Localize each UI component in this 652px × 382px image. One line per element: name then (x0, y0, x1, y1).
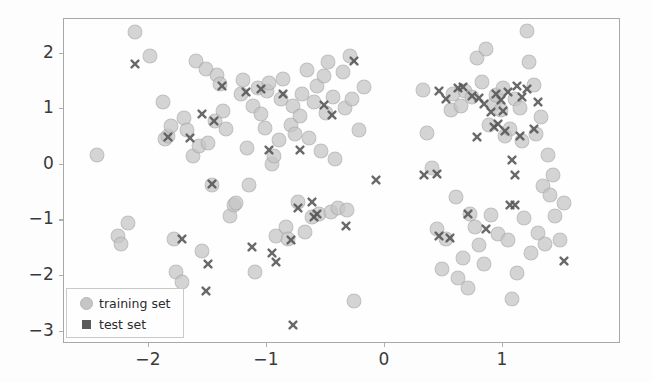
data-point-training-set (314, 144, 329, 159)
data-point-test-set (209, 116, 219, 126)
data-point-training-set (517, 211, 532, 226)
legend-entry-training-set[interactable]: training set (73, 293, 171, 313)
data-point-test-set (241, 87, 251, 97)
data-point-training-set (500, 232, 515, 247)
data-point-test-set (271, 257, 281, 267)
data-point-test-set (185, 133, 195, 143)
data-point-training-set (540, 147, 555, 162)
data-point-test-set (264, 145, 274, 155)
data-point-test-set (319, 100, 329, 110)
data-point-test-set (533, 97, 543, 107)
data-point-test-set (498, 106, 508, 116)
data-point-test-set (510, 170, 520, 180)
data-point-test-set (293, 203, 303, 213)
data-point-training-set (521, 54, 536, 69)
y-tick-mark (59, 108, 63, 109)
x-tick-label: 0 (361, 349, 407, 369)
data-point-test-set (481, 224, 491, 234)
data-point-training-set (288, 126, 303, 141)
data-point-training-set (533, 109, 548, 124)
data-point-test-set (507, 155, 517, 165)
data-point-test-set (256, 84, 266, 94)
data-point-training-set (460, 281, 475, 296)
data-point-test-set (197, 109, 207, 119)
data-point-test-set (163, 132, 173, 142)
data-point-test-set (472, 132, 482, 142)
data-point-test-set (529, 124, 539, 134)
data-point-test-set (500, 126, 510, 136)
data-point-test-set (559, 256, 569, 266)
x-tick-label: −1 (243, 349, 289, 369)
y-tick-label: 2 (10, 42, 54, 62)
data-point-test-set (327, 110, 337, 120)
data-point-training-set (434, 262, 449, 277)
data-point-training-set (344, 92, 359, 107)
x-tick-label: −2 (125, 349, 171, 369)
data-point-training-set (505, 292, 520, 307)
legend-label-test-set: test set (99, 317, 146, 332)
data-point-test-set (515, 131, 525, 141)
data-point-test-set (432, 169, 442, 179)
data-point-training-set (547, 209, 562, 224)
x-tick-label: 1 (479, 349, 525, 369)
data-point-test-set (278, 89, 288, 99)
data-point-training-set (474, 75, 489, 90)
data-point-test-set (307, 197, 317, 207)
data-point-test-set (419, 170, 429, 180)
data-point-training-set (113, 236, 128, 251)
data-point-training-set (229, 195, 244, 210)
legend-entry-test-set[interactable]: test set (73, 314, 146, 334)
y-tick-mark (59, 275, 63, 276)
data-point-test-set (295, 145, 305, 155)
data-point-training-set (543, 188, 558, 203)
data-point-training-set (302, 131, 317, 146)
data-point-training-set (328, 152, 343, 167)
data-point-training-set (557, 195, 572, 210)
data-point-training-set (218, 122, 233, 137)
data-point-test-set (486, 107, 496, 117)
data-point-training-set (321, 54, 336, 69)
data-point-training-set (242, 177, 257, 192)
data-point-training-set (195, 244, 210, 259)
data-point-training-set (340, 203, 355, 218)
data-point-training-set (236, 73, 251, 88)
data-point-training-set (156, 95, 171, 110)
x-tick-mark (384, 343, 385, 347)
x-tick-mark (502, 343, 503, 347)
data-point-test-set (177, 234, 187, 244)
legend-label-training-set: training set (99, 296, 171, 311)
y-tick-mark (59, 164, 63, 165)
data-point-training-set (127, 25, 142, 40)
data-point-test-set (247, 242, 257, 252)
data-point-training-set (356, 79, 371, 94)
data-point-training-set (316, 68, 331, 83)
data-point-training-set (257, 120, 272, 135)
data-point-training-set (448, 189, 463, 204)
data-point-training-set (415, 82, 430, 97)
data-point-training-set (120, 216, 135, 231)
data-point-training-set (472, 238, 487, 253)
y-tick-label: −2 (10, 264, 54, 284)
legend-box[interactable]: training set test set (66, 288, 184, 338)
circle-marker-icon (73, 297, 99, 310)
data-point-training-set (538, 236, 553, 251)
data-point-training-set (420, 125, 435, 140)
data-point-training-set (276, 71, 291, 86)
data-point-training-set (352, 123, 367, 138)
scatter-plot-figure: −2−101 210−1−2−3 training set test set (0, 0, 652, 382)
data-point-test-set (286, 235, 296, 245)
data-point-test-set (445, 233, 455, 243)
data-point-test-set (203, 259, 213, 269)
data-point-test-set (130, 59, 140, 69)
y-tick-label: 1 (10, 97, 54, 117)
data-point-training-set (347, 294, 362, 309)
data-point-test-set (463, 209, 473, 219)
data-point-test-set (201, 286, 211, 296)
y-tick-mark (59, 331, 63, 332)
data-point-training-set (200, 135, 215, 150)
data-point-test-set (522, 84, 532, 94)
data-point-training-set (455, 251, 470, 266)
x-tick-mark (148, 343, 149, 347)
data-point-training-set (479, 42, 494, 57)
data-point-test-set (349, 56, 359, 66)
